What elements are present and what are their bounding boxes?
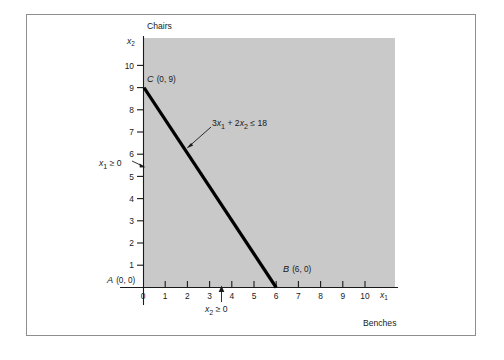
point-b-coords: (6, 0): [292, 265, 311, 274]
x1-nonneg-relation: ≥: [107, 158, 117, 168]
x1-nonnegativity-label: x1 ≥ 0: [99, 159, 122, 171]
x-tick-label-5: 5: [245, 292, 263, 300]
y-tick-label-4: 4: [114, 195, 134, 203]
point-label-b: B(6, 0): [283, 265, 311, 274]
x-tick-label-8: 8: [312, 292, 330, 300]
y-axis-caption: Chairs: [147, 22, 172, 31]
point-a-name: A: [107, 275, 113, 285]
y-tick-label-2: 2: [114, 239, 134, 247]
x-tick-label-0: 0: [134, 292, 152, 300]
x1-nonneg-value: 0: [117, 158, 122, 168]
point-label-c: C(0, 9): [147, 75, 176, 84]
y-tick-label-8: 8: [114, 106, 134, 114]
x-axis-variable-label: x1: [380, 291, 388, 300]
x2-nonneg-relation: ≥: [213, 304, 223, 314]
constraint-inequality-label: 3x1 + 2x2 ≤ 18: [212, 119, 267, 131]
x-axis-variable-subscript: 1: [384, 294, 388, 301]
x-tick-label-7: 7: [289, 292, 307, 300]
y-tick-label-5: 5: [114, 173, 134, 181]
plot-canvas: [0, 0, 504, 360]
x2-nonnegativity-label: x2 ≥ 0: [205, 305, 228, 317]
point-c-coords: (0, 9): [157, 75, 176, 84]
x-axis-caption: Benches: [363, 319, 396, 328]
x2-nonneg-value: 0: [223, 304, 228, 314]
y-tick-label-1: 1: [114, 261, 134, 269]
constraint-rhs: 18: [257, 118, 267, 128]
x-tick-label-9: 9: [334, 292, 352, 300]
figure-root: Chairs x2 10 9 8 7 6 5 4 3 2 1 0 1 2 3 4…: [0, 0, 504, 360]
x-tick-label-1: 1: [156, 292, 174, 300]
x-tick-label-3: 3: [201, 292, 219, 300]
constraint-plus: +: [225, 118, 235, 128]
x-tick-label-2: 2: [178, 292, 196, 300]
y-tick-label-10: 10: [114, 62, 134, 70]
x-tick-label-6: 6: [267, 292, 285, 300]
y-axis-variable-label: x2: [127, 37, 135, 46]
y-axis-variable-subscript: 2: [131, 40, 135, 47]
point-c-name: C: [147, 74, 154, 84]
constraint-annotation-leader: [187, 127, 212, 149]
point-a-coords: (0, 0): [116, 276, 135, 285]
x-tick-label-4: 4: [223, 292, 241, 300]
y-tick-label-3: 3: [114, 217, 134, 225]
point-label-a: A(0, 0): [107, 276, 135, 285]
point-b-name: B: [283, 264, 289, 274]
y-tick-label-9: 9: [114, 84, 134, 92]
x-tick-label-10: 10: [356, 292, 374, 300]
constraint-relation: ≤: [248, 118, 258, 128]
y-tick-label-7: 7: [114, 128, 134, 136]
